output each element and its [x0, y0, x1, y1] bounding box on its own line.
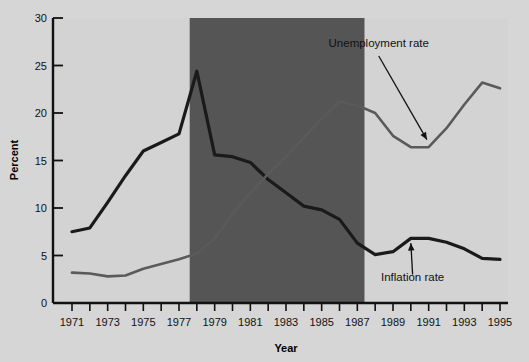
y-tick-label: 15 [35, 155, 47, 167]
chart-figure: 051015202530 197119731975197719791981198… [0, 0, 529, 362]
y-tick-label: 0 [41, 297, 47, 309]
y-tick-label: 5 [41, 250, 47, 262]
x-axis-ticks: 1971197319751977197919811983198519871989… [60, 303, 512, 328]
x-tick-label: 1977 [167, 316, 191, 328]
x-tick-label: 1993 [452, 316, 476, 328]
y-tick-label: 30 [35, 12, 47, 24]
shaded-period-band [190, 18, 365, 303]
x-tick-label: 1983 [274, 316, 298, 328]
percent-vs-year-line-chart: 051015202530 197119731975197719791981198… [0, 0, 529, 362]
x-axis-title: Year [274, 342, 298, 354]
x-tick-label: 1975 [131, 316, 155, 328]
x-tick-label: 1985 [309, 316, 333, 328]
x-tick-label: 1991 [416, 316, 440, 328]
x-tick-label: 1981 [238, 316, 262, 328]
x-tick-label: 1987 [345, 316, 369, 328]
y-axis-title: Percent [8, 139, 20, 180]
x-tick-label: 1995 [488, 316, 512, 328]
annotation-label-unemployment-rate: Unemployment rate [329, 37, 429, 49]
y-tick-label: 25 [35, 60, 47, 72]
recession-shade-rect [190, 18, 365, 303]
y-tick-label: 10 [35, 202, 47, 214]
y-tick-label: 20 [35, 107, 47, 119]
x-tick-label: 1971 [60, 316, 84, 328]
x-tick-label: 1989 [381, 316, 405, 328]
x-tick-label: 1979 [202, 316, 226, 328]
x-tick-label: 1973 [95, 316, 119, 328]
